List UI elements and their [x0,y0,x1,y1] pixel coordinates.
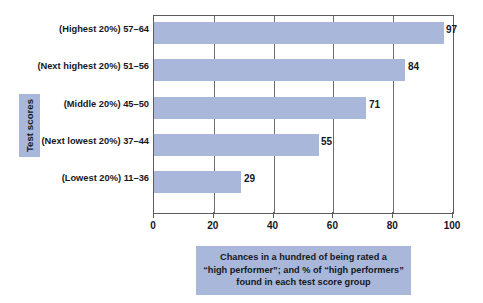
caption-line-1: Chances in a hundred of being rated a [200,251,407,264]
category-label-middle: (Middle 20%) 45–50 [0,100,149,109]
xtick-label-40: 40 [267,221,278,231]
value-label-next-lowest: 55 [321,137,332,147]
bar-middle [154,97,366,119]
category-label-next-highest: (Next highest 20%) 51–56 [0,62,149,71]
category-label-highest: (Highest 20%) 57–64 [0,25,149,34]
caption-line-3: found in each test score group [200,276,407,289]
xtick-label-60: 60 [327,221,338,231]
xtick-label-100: 100 [444,221,461,231]
xtick-mark-20 [213,212,214,218]
bar-chart: Test scores (Highest 20%) 57–64 (Next hi… [0,0,483,303]
value-label-next-highest: 84 [408,62,419,72]
plot-area [153,15,454,214]
x-axis-caption-box: Chances in a hundred of being rated a “h… [196,246,411,295]
xtick-label-20: 20 [207,221,218,231]
xtick-mark-60 [332,212,333,218]
bar-lowest [154,171,241,193]
xtick-mark-0 [153,212,154,218]
bar-next-lowest [154,134,319,156]
xtick-label-0: 0 [150,221,156,231]
bar-next-highest [154,59,405,81]
value-label-highest: 97 [446,25,457,35]
xtick-mark-80 [392,212,393,218]
category-label-lowest: (Lowest 20%) 11–36 [0,174,149,183]
xtick-label-80: 80 [387,221,398,231]
caption-line-2: “high performer”; and % of “high perform… [200,264,407,277]
category-label-next-lowest: (Next lowest 20%) 37–44 [0,137,149,146]
xtick-mark-100 [452,212,453,218]
value-label-middle: 71 [369,100,380,110]
bar-highest [154,22,444,44]
xtick-mark-40 [273,212,274,218]
gridline-80 [393,16,394,213]
value-label-lowest: 29 [244,174,255,184]
